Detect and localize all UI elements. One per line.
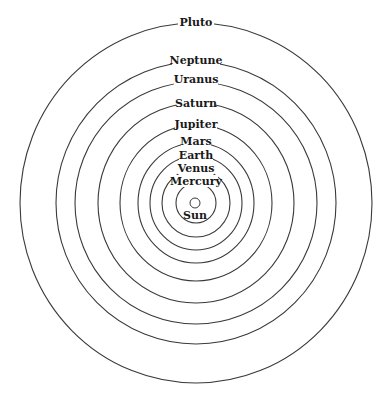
solar-system-diagram: MercuryVenusEarthMarsJupiterSaturnUranus… [0, 0, 387, 396]
planet-name-earth: Earth [179, 149, 213, 162]
planet-name-saturn: Saturn [175, 97, 217, 110]
planet-name-mercury: Mercury [170, 175, 222, 188]
orbit-label-neptune: Neptune [170, 54, 223, 67]
sun: Sun [183, 198, 207, 222]
orbit-label-saturn: Saturn [175, 97, 217, 110]
orbit-labels: MercuryVenusEarthMarsJupiterSaturnUranus… [170, 16, 223, 188]
planet-name-mars: Mars [180, 135, 211, 148]
orbit-label-uranus: Uranus [174, 73, 219, 86]
orbit-label-venus: Venus [177, 162, 215, 175]
planet-name-neptune: Neptune [170, 54, 223, 67]
orbit-label-jupiter: Jupiter [174, 118, 218, 131]
orbit-label-mercury: Mercury [170, 175, 222, 188]
sun-label: Sun [183, 209, 207, 222]
orbit-label-pluto: Pluto [178, 16, 214, 29]
planet-name-jupiter: Jupiter [174, 118, 218, 131]
planet-name-venus: Venus [177, 162, 215, 175]
planet-name-uranus: Uranus [174, 73, 219, 86]
planet-name-pluto: Pluto [180, 16, 213, 29]
orbit-label-earth: Earth [179, 149, 213, 162]
orbit-label-mars: Mars [180, 135, 211, 148]
sun-icon [190, 198, 200, 208]
